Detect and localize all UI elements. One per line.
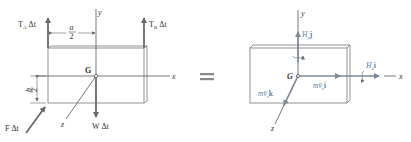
equals-sign [200, 73, 214, 80]
z-axis-label: z [270, 124, 275, 133]
tension-b-label: TB Δt [149, 20, 167, 30]
impulse-force-label: F Δt [5, 124, 20, 133]
center-of-mass-label: G [287, 72, 293, 81]
half-height-label-den: 2 [30, 88, 39, 92]
center-of-mass-label: G [85, 66, 91, 75]
linear-momentum-z-label: mv̄zk [258, 89, 274, 99]
half-width-label-num: a [70, 23, 74, 32]
tension-a-label: TA Δt [18, 20, 37, 30]
equals-bar-top [200, 73, 214, 75]
x-axis-label: x [171, 72, 176, 81]
angular-momentum-x-label: Hxi [365, 61, 376, 71]
linear-momentum-x-label: mv̄xi [313, 81, 326, 91]
impulse-force-arrow [26, 107, 45, 133]
x-axis-label: x [398, 72, 403, 81]
y-axis-label: y [97, 8, 102, 17]
equals-bar-bottom [200, 78, 214, 80]
impulse-momentum-diagram: y x z G TA Δt TB Δt a 2 b 2 W Δt [0, 0, 411, 142]
z-axis-label: z [60, 120, 65, 129]
half-width-label-den: 2 [70, 32, 74, 41]
weight-label: W Δt [92, 122, 110, 131]
y-axis-label: y [300, 9, 305, 18]
momentum-diagram: y Hyj G mv̄xi Hxi x mv̄zk z [250, 9, 403, 133]
angular-momentum-y-label: Hyj [301, 30, 313, 40]
free-body-diagram: y x z G TA Δt TB Δt a 2 b 2 W Δt [5, 8, 176, 133]
